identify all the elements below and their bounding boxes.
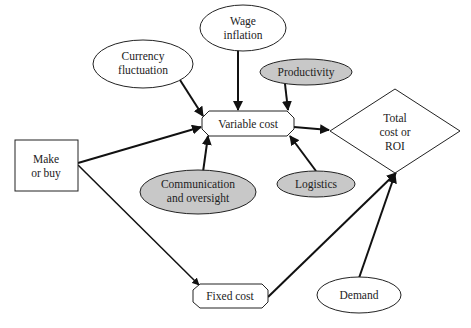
wage-label-1: Wage [230,15,256,28]
node-currency-fluctuation[interactable]: Currency fluctuation [93,40,193,88]
make-or-buy-box [15,140,78,191]
logistics-label: Logistics [295,178,338,191]
node-wage-inflation[interactable]: Wage inflation [200,5,286,51]
communication-label-1: Communication [161,178,235,190]
make-or-buy-label-1: Make [33,153,59,165]
currency-label-1: Currency [122,50,165,63]
total-cost-label-2: cost or [380,126,411,138]
communication-label-2: and oversight [167,192,230,205]
node-productivity[interactable]: Productivity [260,59,352,85]
edge-logistics-to-variable [290,136,316,171]
make-or-buy-label-2: or buy [31,167,61,180]
edge-demand-to-total [359,174,395,278]
node-total-cost[interactable]: Total cost or ROI [330,89,460,173]
node-fixed-cost[interactable]: Fixed cost [193,284,268,308]
wage-ellipse [200,5,286,51]
edge-productivity-to-variable [285,84,288,110]
edge-make-to-variable [78,127,201,163]
node-logistics[interactable]: Logistics [277,171,355,197]
currency-label-2: fluctuation [118,64,168,76]
diagram-canvas: Make or buy Currency fluctuation Wage in… [0,0,471,328]
node-variable-cost[interactable]: Variable cost [202,111,294,136]
edge-variable-to-total [294,127,329,130]
edge-currency-to-variable [180,80,203,116]
fixed-cost-label: Fixed cost [206,290,254,302]
edge-communication-to-variable [203,136,208,172]
variable-cost-label: Variable cost [218,118,279,130]
demand-label: Demand [340,289,379,301]
node-demand[interactable]: Demand [317,277,401,313]
total-cost-label-3: ROI [385,140,405,152]
productivity-label: Productivity [278,66,335,79]
wage-label-2: inflation [224,29,263,41]
node-make-or-buy[interactable]: Make or buy [15,140,78,191]
total-cost-label-1: Total [383,112,406,124]
node-communication[interactable]: Communication and oversight [140,170,256,214]
